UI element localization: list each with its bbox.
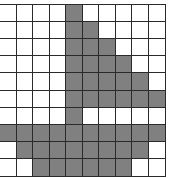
grid-cell	[0, 159, 17, 176]
grid-cell	[149, 73, 166, 90]
grid-cell	[149, 5, 166, 22]
grid-cell	[66, 108, 83, 125]
grid-cell	[83, 22, 100, 39]
grid-cell	[50, 159, 67, 176]
grid-cell	[66, 39, 83, 56]
grid-cell	[116, 159, 133, 176]
grid-cell	[17, 22, 34, 39]
grid-cell	[33, 125, 50, 142]
grid-cell	[66, 22, 83, 39]
grid-cell	[149, 39, 166, 56]
grid-cell	[99, 39, 116, 56]
grid-cell	[99, 22, 116, 39]
grid-cell	[116, 73, 133, 90]
grid-cell	[0, 91, 17, 108]
grid-cell	[17, 108, 34, 125]
grid-cell	[132, 73, 149, 90]
grid-cell	[116, 142, 133, 159]
grid-cell	[50, 108, 67, 125]
grid-cell	[33, 159, 50, 176]
grid-cell	[83, 108, 100, 125]
grid-cell	[66, 56, 83, 73]
grid-cell	[0, 56, 17, 73]
grid-cell	[99, 125, 116, 142]
grid-cell	[83, 56, 100, 73]
grid-cell	[149, 125, 166, 142]
grid-cell	[99, 5, 116, 22]
grid-cell	[17, 159, 34, 176]
grid-cell	[99, 108, 116, 125]
grid-cell	[132, 56, 149, 73]
grid-cell	[116, 108, 133, 125]
grid-cell	[83, 125, 100, 142]
grid-cell	[83, 5, 100, 22]
pixel-grid	[0, 4, 166, 177]
grid-cell	[149, 108, 166, 125]
grid-cell	[50, 5, 67, 22]
grid-cell	[50, 56, 67, 73]
grid-cell	[149, 91, 166, 108]
grid-cell	[116, 39, 133, 56]
grid-cell	[132, 39, 149, 56]
grid-cell	[132, 159, 149, 176]
grid-cell	[83, 142, 100, 159]
grid-cell	[17, 5, 34, 22]
grid-cell	[33, 91, 50, 108]
grid-cell	[99, 159, 116, 176]
grid-cell	[66, 125, 83, 142]
grid-cell	[33, 22, 50, 39]
grid-cell	[33, 108, 50, 125]
grid-cell	[17, 142, 34, 159]
grid-cell	[0, 73, 17, 90]
grid-cell	[0, 22, 17, 39]
grid-cell	[33, 56, 50, 73]
grid-cell	[66, 159, 83, 176]
grid-cell	[33, 73, 50, 90]
grid-cell	[132, 142, 149, 159]
grid-cell	[149, 159, 166, 176]
grid-cell	[83, 39, 100, 56]
grid-cell	[66, 91, 83, 108]
grid-cell	[149, 56, 166, 73]
grid-cell	[17, 73, 34, 90]
grid-cell	[50, 22, 67, 39]
grid-cell	[116, 22, 133, 39]
grid-cell	[66, 142, 83, 159]
grid-cell	[132, 22, 149, 39]
grid-cell	[50, 125, 67, 142]
grid-cell	[83, 91, 100, 108]
grid-cell	[33, 142, 50, 159]
grid-cell	[66, 5, 83, 22]
grid-cell	[149, 22, 166, 39]
grid-cell	[17, 91, 34, 108]
grid-cell	[17, 56, 34, 73]
grid-cell	[17, 39, 34, 56]
grid-cell	[33, 39, 50, 56]
grid-cell	[99, 73, 116, 90]
grid-cell	[66, 73, 83, 90]
grid-cell	[17, 125, 34, 142]
grid-cell	[50, 142, 67, 159]
grid-cell	[50, 39, 67, 56]
grid-cell	[83, 73, 100, 90]
grid-cell	[99, 142, 116, 159]
grid-cell	[99, 91, 116, 108]
grid-cell	[0, 108, 17, 125]
grid-cell	[149, 142, 166, 159]
grid-cell	[116, 5, 133, 22]
grid-cell	[132, 5, 149, 22]
grid-cell	[0, 5, 17, 22]
grid-cell	[116, 125, 133, 142]
grid-cell	[0, 39, 17, 56]
grid-cell	[50, 73, 67, 90]
grid-cell	[83, 159, 100, 176]
grid-cell	[116, 56, 133, 73]
grid-cell	[132, 125, 149, 142]
grid-cell	[116, 91, 133, 108]
grid-cell	[99, 56, 116, 73]
grid-cell	[0, 142, 17, 159]
grid-cell	[50, 91, 67, 108]
grid-cell	[132, 108, 149, 125]
grid-cell	[0, 125, 17, 142]
grid-cell	[132, 91, 149, 108]
